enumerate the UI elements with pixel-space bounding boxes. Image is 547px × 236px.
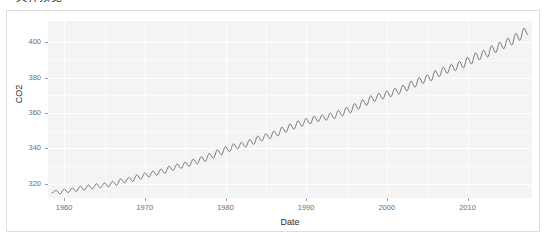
co2-line-path — [52, 28, 528, 194]
x-axis-tick-mark — [64, 198, 65, 201]
x-axis-tick-label: 2010 — [445, 203, 491, 212]
x-axis-tick-label: 1980 — [203, 203, 249, 212]
y-axis-tick-label: 340 — [9, 144, 41, 152]
plot-panel — [48, 21, 532, 198]
y-axis-tick-label: 400 — [9, 38, 41, 46]
y-axis-tick-label: 380 — [9, 74, 41, 82]
x-axis-tick-mark — [226, 198, 227, 201]
x-axis-tick-label: 1970 — [122, 203, 168, 212]
screenshot-root: ‣ 文件预览 CO2 320340360380400 1960197019801… — [0, 0, 547, 236]
x-axis-tick-mark — [468, 198, 469, 201]
co2-line-series — [48, 21, 532, 198]
x-axis-tick-mark — [145, 198, 146, 201]
y-axis-tick-label: 360 — [9, 109, 41, 117]
chart-figure-frame: CO2 320340360380400 19601970198019902000… — [6, 10, 540, 232]
preview-caption: ‣ 文件预览 — [6, 0, 62, 3]
x-axis-tick-label: 2000 — [364, 203, 410, 212]
x-axis-tick-label: 1960 — [41, 203, 87, 212]
x-axis-tick-mark — [387, 198, 388, 201]
x-axis-tick-mark — [306, 198, 307, 201]
x-axis-tick-label: 1990 — [283, 203, 329, 212]
y-axis-tick-label: 320 — [9, 180, 41, 188]
x-axis-title: Date — [48, 217, 532, 227]
